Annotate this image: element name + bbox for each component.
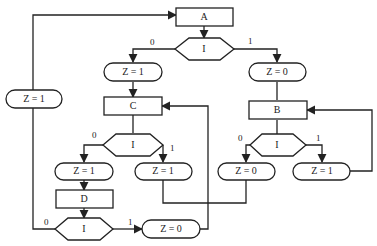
edge-z-c-r-to-z-b-l	[163, 180, 246, 203]
node-label: B	[274, 104, 281, 115]
edge-label-b-1: 1	[316, 133, 321, 143]
decision-node-b: I	[250, 134, 306, 156]
edge-dec-top-1	[233, 49, 277, 62]
node-label: C	[130, 100, 137, 111]
edge-label-c-0: 0	[92, 130, 97, 140]
edge-label-d-1: 1	[128, 217, 133, 227]
process-node-c: C	[104, 97, 162, 115]
edge-dec-b-1	[305, 145, 322, 162]
edge-dec-b-0	[246, 145, 250, 162]
decision-node-d: I	[55, 218, 113, 240]
node-label: Z = 1	[23, 93, 45, 104]
terminal-node-z-top-right: Z = 0	[249, 63, 306, 81]
edge-label-top-1: 1	[248, 36, 253, 46]
node-label: A	[200, 11, 208, 22]
node-label: Z = 0	[266, 66, 288, 77]
edge-dec-top-0	[133, 49, 175, 62]
node-label: I	[82, 223, 85, 234]
terminal-node-z-c-right: Z = 1	[135, 163, 192, 180]
edge-dec-c-0	[84, 145, 103, 162]
terminal-node-z-top-left: Z = 1	[104, 63, 162, 81]
decision-node-top: I	[175, 38, 234, 60]
terminal-node-z-d-right: Z = 0	[142, 220, 200, 238]
node-label: D	[80, 193, 87, 204]
node-label: Z = 1	[311, 165, 333, 176]
terminal-node-z-b-left: Z = 0	[218, 163, 275, 180]
edge-label-c-1: 1	[170, 143, 175, 153]
node-label: Z = 1	[73, 165, 95, 176]
edge-label-b-0: 0	[238, 133, 243, 143]
node-label: I	[275, 139, 278, 150]
edge-label-d-0: 0	[44, 217, 49, 227]
node-label: I	[131, 139, 134, 150]
decision-node-c: I	[103, 134, 163, 156]
terminal-node-z-b-right: Z = 1	[293, 163, 350, 180]
node-label: Z = 0	[235, 165, 257, 176]
node-label: Z = 1	[122, 66, 144, 77]
process-node-a: A	[176, 8, 233, 26]
node-label: Z = 1	[152, 165, 174, 176]
flowchart-canvas: A I 0 1 Z = 1 Z = 0 Z = 1 C B I 0 1 I	[0, 0, 377, 246]
terminal-node-z-loop: Z = 1	[6, 90, 62, 108]
process-node-b: B	[249, 101, 307, 119]
process-node-d: D	[56, 190, 113, 208]
node-label: Z = 0	[160, 223, 182, 234]
node-label: I	[202, 43, 205, 54]
terminal-node-z-c-left: Z = 1	[55, 163, 113, 180]
edge-label-top-0: 0	[150, 37, 155, 47]
